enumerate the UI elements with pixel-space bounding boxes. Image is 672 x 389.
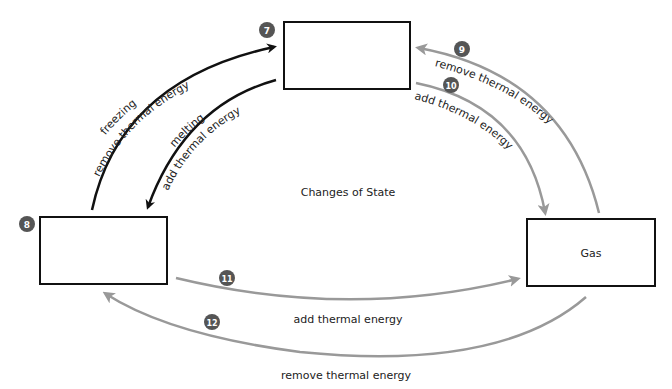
gas-label: Gas	[581, 247, 602, 260]
svg-text:8: 8	[24, 220, 30, 230]
left-to-gas-energy-label: add thermal energy	[294, 313, 403, 326]
gas-to-left-energy-label: remove thermal energy	[281, 369, 411, 382]
gas-to-top-arrow	[419, 48, 599, 213]
badge-10: 10	[443, 77, 459, 93]
changes-of-state-diagram: Gas freezing remove thermal energy melti…	[0, 0, 672, 389]
badge-7: 7	[259, 22, 275, 38]
badge-12: 12	[204, 314, 220, 330]
svg-text:11: 11	[221, 275, 233, 284]
badge-9: 9	[454, 41, 470, 57]
top-state-box	[284, 22, 410, 89]
badge-11: 11	[219, 270, 235, 286]
left-state-box	[40, 217, 167, 284]
svg-text:12: 12	[206, 319, 217, 328]
svg-text:7: 7	[264, 26, 270, 36]
badge-8: 8	[19, 216, 35, 232]
svg-text:9: 9	[459, 45, 465, 55]
diagram-title: Changes of State	[301, 186, 396, 199]
svg-text:10: 10	[445, 82, 457, 91]
